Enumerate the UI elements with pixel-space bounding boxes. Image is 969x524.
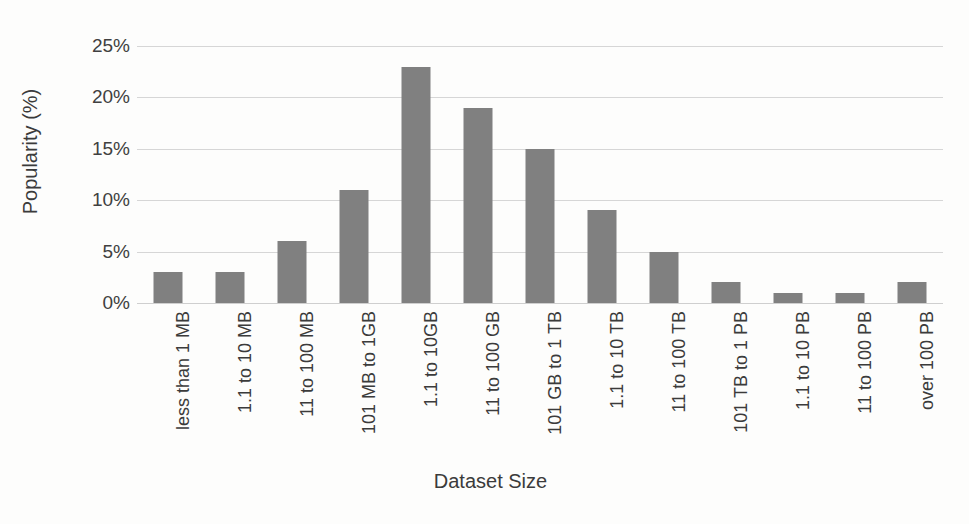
bar-slot — [509, 46, 571, 303]
bar[interactable] — [836, 293, 865, 303]
x-axis-tick-label: 1.1 to 10 PB — [794, 311, 812, 410]
x-axis-tick-label: 101 MB to 1GB — [360, 311, 378, 434]
bar[interactable] — [650, 252, 679, 303]
bar-slot — [695, 46, 757, 303]
y-axis-tick-label: 20% — [10, 87, 130, 106]
bar-slot — [881, 46, 943, 303]
x-axis-tick-label: 1.1 to 10 TB — [608, 311, 626, 409]
x-axis-label-slot: 101 TB to 1 PB — [695, 303, 757, 458]
bar-slot — [199, 46, 261, 303]
x-axis-tick-label: 1.1 to 10 MB — [236, 311, 254, 413]
x-axis-tick-label: 1.1 to 10GB — [422, 311, 440, 407]
x-axis-label-slot: 11 to 100 GB — [447, 303, 509, 458]
x-axis-title-text: Dataset Size — [434, 470, 547, 492]
x-axis-tick-label: 11 to 100 TB — [670, 311, 688, 412]
bar[interactable] — [154, 272, 183, 303]
bar[interactable] — [216, 272, 245, 303]
x-axis-label-slot: 11 to 100 PB — [819, 303, 881, 458]
bar[interactable] — [340, 190, 369, 303]
x-axis-label-slot: 1.1 to 10GB — [385, 303, 447, 458]
y-axis-tick-labels: 0%5%10%15%20%25% — [0, 46, 130, 303]
x-axis-tick-label: 11 to 100 PB — [856, 311, 874, 414]
bar-slot — [323, 46, 385, 303]
bar[interactable] — [464, 108, 493, 303]
bar-slot — [757, 46, 819, 303]
plot-area — [137, 46, 943, 303]
x-axis-label-slot: over 100 PB — [881, 303, 943, 458]
x-axis-label-slot: 1.1 to 10 MB — [199, 303, 261, 458]
x-axis-tick-label: 11 to 100 MB — [298, 311, 316, 417]
x-axis-label-slot: 11 to 100 TB — [633, 303, 695, 458]
y-axis-tick-label: 0% — [10, 293, 130, 312]
y-axis-tick-label: 25% — [10, 36, 130, 55]
bar[interactable] — [712, 282, 741, 303]
bar[interactable] — [402, 67, 431, 303]
x-axis-label-slot: less than 1 MB — [137, 303, 199, 458]
bar-slot — [571, 46, 633, 303]
x-axis-tick-label: less than 1 MB — [174, 311, 192, 430]
x-axis-tick-label: 101 TB to 1 PB — [732, 311, 750, 433]
x-axis-label-slot: 101 GB to 1 TB — [509, 303, 571, 458]
bar-slot — [385, 46, 447, 303]
bar[interactable] — [774, 293, 803, 303]
x-axis-label-slot: 101 MB to 1GB — [323, 303, 385, 458]
x-axis-label-slot: 1.1 to 10 TB — [571, 303, 633, 458]
bar[interactable] — [526, 149, 555, 303]
bar-slot — [633, 46, 695, 303]
bar-slot — [137, 46, 199, 303]
bar-slot — [819, 46, 881, 303]
bar[interactable] — [898, 282, 927, 303]
bar-slot — [447, 46, 509, 303]
x-axis-label-slot: 11 to 100 MB — [261, 303, 323, 458]
bar-chart: Popularity (%) 0%5%10%15%20%25% less tha… — [0, 0, 969, 524]
y-axis-tick-label: 5% — [10, 242, 130, 261]
x-axis-tick-label: 11 to 100 GB — [484, 311, 502, 416]
bar[interactable] — [278, 241, 307, 303]
x-axis-label-slot: 1.1 to 10 PB — [757, 303, 819, 458]
y-axis-tick-label: 15% — [10, 139, 130, 158]
x-axis-tick-label: over 100 PB — [918, 311, 936, 410]
x-axis-tick-labels: less than 1 MB1.1 to 10 MB11 to 100 MB10… — [137, 303, 943, 458]
bar-slot — [261, 46, 323, 303]
x-axis-title: Dataset Size — [0, 470, 969, 493]
bar[interactable] — [588, 210, 617, 303]
x-axis-tick-label: 101 GB to 1 TB — [546, 311, 564, 435]
y-axis-tick-label: 10% — [10, 190, 130, 209]
